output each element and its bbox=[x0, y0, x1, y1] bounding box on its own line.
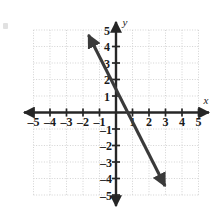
y-axis-label: y bbox=[122, 16, 128, 28]
x-tick-labels: –5 –4 –3 –2 –1 1 2 3 4 5 bbox=[27, 115, 202, 129]
x-tick-label: 3 bbox=[163, 115, 169, 129]
x-tick-label: –2 bbox=[76, 115, 89, 129]
coordinate-plane-figure: –5 –4 –3 –2 –1 1 2 3 4 5 5 4 3 2 1 –1 –2… bbox=[0, 0, 224, 212]
x-tick-label: 5 bbox=[196, 115, 202, 129]
x-tick-label: –4 bbox=[43, 115, 56, 129]
x-tick-label: –3 bbox=[60, 115, 73, 129]
x-axis-label: x bbox=[203, 94, 209, 106]
y-tick-label: –3 bbox=[99, 156, 112, 170]
y-tick-label: –4 bbox=[99, 172, 112, 186]
x-tick-label: 4 bbox=[179, 115, 185, 129]
y-tick-label: 4 bbox=[104, 40, 110, 54]
y-tick-label: –5 bbox=[99, 189, 112, 203]
x-tick-label: –5 bbox=[27, 115, 40, 129]
y-tick-label: –1 bbox=[99, 123, 112, 137]
x-tick-label: 2 bbox=[146, 115, 152, 129]
y-tick-label: 1 bbox=[104, 90, 110, 104]
graph-canvas: –5 –4 –3 –2 –1 1 2 3 4 5 5 4 3 2 1 –1 –2… bbox=[0, 0, 224, 212]
y-tick-label: 5 bbox=[104, 24, 110, 38]
y-tick-label: –2 bbox=[99, 139, 112, 153]
